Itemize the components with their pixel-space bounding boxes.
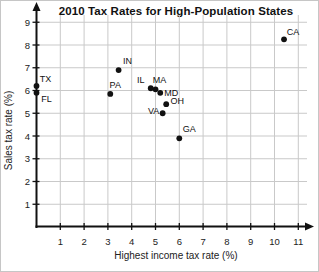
data-point-FL [34, 90, 40, 96]
data-point-label-IL: IL [137, 75, 145, 85]
data-point-VA [160, 110, 166, 116]
data-point-IN [116, 67, 122, 73]
x-tick-label-5: 5 [153, 236, 158, 247]
y-tick-label-4: 4 [25, 131, 30, 142]
y-tick-label-7: 7 [25, 62, 30, 73]
scatter-plot-figure: 2010 Tax Rates for High-Population State… [0, 0, 319, 272]
x-tick-label-4: 4 [129, 236, 134, 247]
y-tick-label-5: 5 [25, 108, 30, 119]
x-tick-label-7: 7 [200, 236, 205, 247]
y-tick-label-8: 8 [25, 40, 30, 51]
data-point-OH [163, 101, 169, 107]
data-point-label-FL: FL [41, 94, 52, 104]
data-point-label-OH: OH [170, 96, 184, 106]
data-point-label-CA: CA [287, 27, 300, 37]
data-point-label-TX: TX [40, 74, 52, 84]
y-tick-label-3: 3 [25, 153, 30, 164]
y-tick-label-2: 2 [25, 176, 30, 187]
x-axis-label: Highest income tax rate (%) [36, 250, 316, 261]
data-point-label-IN: IN [123, 56, 132, 66]
x-tick-label-8: 8 [224, 236, 229, 247]
data-point-GA [176, 135, 182, 141]
x-tick-label-3: 3 [105, 236, 110, 247]
data-point-PA [107, 91, 113, 97]
data-point-label-PA: PA [110, 80, 121, 90]
y-axis-label: Sales tax rate (%) [3, 61, 14, 201]
data-point-TX [34, 83, 40, 89]
data-point-label-VA: VA [148, 106, 159, 116]
x-tick-label-10: 10 [269, 236, 280, 247]
x-tick-label-2: 2 [81, 236, 86, 247]
scatter-plot-canvas: 1234567891011123456789TXFLPAINILMAMDOHVA… [1, 1, 319, 272]
data-point-MD [157, 90, 163, 96]
x-tick-label-9: 9 [248, 236, 253, 247]
data-point-label-GA: GA [183, 124, 196, 134]
x-tick-label-1: 1 [58, 236, 63, 247]
y-axis-arrowhead [33, 2, 41, 11]
x-tick-label-11: 11 [293, 236, 303, 247]
data-point-MA [153, 86, 159, 92]
x-axis-arrowhead [305, 223, 314, 231]
y-tick-label-6: 6 [25, 85, 30, 96]
data-point-label-MA: MA [153, 75, 167, 85]
y-tick-label-9: 9 [25, 17, 30, 28]
x-tick-label-6: 6 [177, 236, 182, 247]
y-tick-label-1: 1 [25, 199, 30, 210]
